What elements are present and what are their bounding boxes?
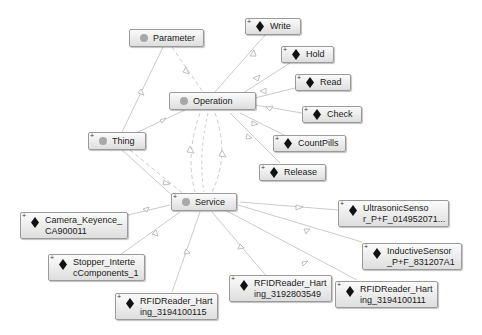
class-icon xyxy=(140,34,148,42)
individual-diamond-icon xyxy=(256,21,264,32)
individual-diamond-icon xyxy=(292,49,300,60)
node-label: CountPills xyxy=(298,138,339,149)
node-label: Hold xyxy=(306,49,325,60)
individual-diamond-icon xyxy=(306,77,314,88)
expand-icon[interactable]: + xyxy=(337,281,341,288)
class-icon xyxy=(99,137,107,145)
node-label: Write xyxy=(270,21,291,32)
node-label: InductiveSensor _P+F_831207A1 xyxy=(387,246,455,268)
individual-node-release[interactable]: + Release xyxy=(259,164,326,181)
node-label: UltrasonicSenso r_P+F_014952071... xyxy=(363,203,445,225)
individual-node-ultrasonic-sensor[interactable]: + UltrasonicSenso r_P+F_014952071... xyxy=(338,200,449,227)
node-label: Parameter xyxy=(153,33,195,44)
individual-node-check[interactable]: + Check xyxy=(302,106,362,123)
class-icon xyxy=(180,97,188,105)
node-label: Camera_Keyence_ CA900011 xyxy=(45,215,122,237)
expand-icon[interactable]: + xyxy=(22,212,26,219)
node-label: Stopper_Interte cComponents_1 xyxy=(73,257,139,279)
individual-diamond-icon xyxy=(126,298,134,309)
class-icon xyxy=(182,198,190,206)
expand-icon[interactable]: + xyxy=(231,275,235,282)
expand-icon[interactable]: + xyxy=(275,135,279,142)
node-label: Operation xyxy=(193,96,233,107)
expand-icon[interactable]: + xyxy=(173,193,177,200)
individual-diamond-icon xyxy=(349,205,357,216)
node-label: Release xyxy=(284,167,317,178)
individual-node-rfid-3194100115[interactable]: + RFIDReader_Hart ing_3194100115 xyxy=(115,293,218,320)
node-label: RFIDReader_Hart ing_3194100111 xyxy=(360,284,433,306)
individual-node-camera[interactable]: + Camera_Keyence_ CA900011 xyxy=(20,212,128,239)
expand-icon[interactable]: + xyxy=(117,293,121,300)
individual-diamond-icon xyxy=(59,259,67,270)
node-label: Thing xyxy=(112,136,135,147)
expand-icon[interactable]: + xyxy=(340,200,344,207)
expand-icon[interactable]: + xyxy=(247,18,251,25)
expand-icon[interactable]: + xyxy=(364,243,368,250)
individual-node-rfid-3192803549[interactable]: + RFIDReader_Hart ing_3192803549 xyxy=(229,275,332,302)
individual-node-stopper[interactable]: + Stopper_Interte cComponents_1 xyxy=(48,254,145,281)
expand-icon[interactable]: + xyxy=(304,106,308,113)
individual-node-inductive-sensor[interactable]: + InductiveSensor _P+F_831207A1 xyxy=(362,243,462,270)
class-node-operation[interactable]: Operation xyxy=(169,92,256,110)
node-label: Service xyxy=(195,197,225,208)
expand-icon[interactable]: + xyxy=(297,74,301,81)
expand-icon[interactable]: + xyxy=(261,164,265,171)
expand-icon[interactable]: + xyxy=(90,132,94,139)
node-label: RFIDReader_Hart ing_3192803549 xyxy=(254,278,327,300)
node-label: Read xyxy=(320,77,342,88)
individual-node-rfid-3194100111[interactable]: + RFIDReader_Hart ing_3194100111 xyxy=(335,281,438,308)
individual-diamond-icon xyxy=(373,248,381,259)
individual-diamond-icon xyxy=(240,280,248,291)
individual-diamond-icon xyxy=(270,167,278,178)
class-node-service[interactable]: + Service xyxy=(171,193,237,211)
individual-diamond-icon xyxy=(284,138,292,149)
expand-icon[interactable]: + xyxy=(283,46,287,53)
individual-node-read[interactable]: + Read xyxy=(295,74,351,91)
expand-icon[interactable]: + xyxy=(50,254,54,261)
individual-node-hold[interactable]: + Hold xyxy=(281,46,334,63)
ontology-graph-canvas[interactable]: Parameter Operation + Thing + Service + … xyxy=(0,0,482,335)
individual-diamond-icon xyxy=(313,109,321,120)
individual-node-write[interactable]: + Write xyxy=(245,18,301,35)
individual-diamond-icon xyxy=(346,286,354,297)
individual-diamond-icon xyxy=(31,217,39,228)
class-node-parameter[interactable]: Parameter xyxy=(129,29,204,47)
node-label: Check xyxy=(327,109,353,120)
class-node-thing[interactable]: + Thing xyxy=(88,132,146,150)
individual-node-countpills[interactable]: + CountPills xyxy=(273,135,346,152)
node-label: RFIDReader_Hart ing_3194100115 xyxy=(140,296,213,318)
